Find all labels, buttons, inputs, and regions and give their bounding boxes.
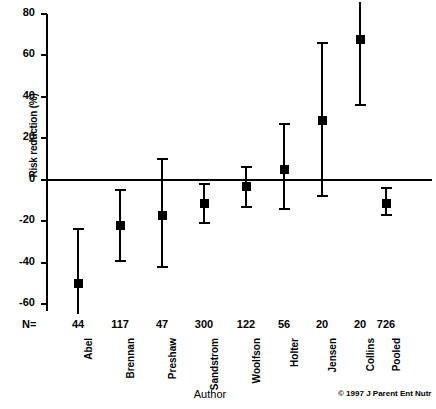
category-label: Woolfson <box>251 338 262 383</box>
ci-lower-cap <box>199 222 210 224</box>
point-estimate-marker <box>356 35 365 44</box>
y-axis-tick: 80 <box>41 13 47 15</box>
y-axis-tick-label: -40 <box>19 255 35 267</box>
y-axis-tick-label: 60 <box>23 47 35 59</box>
n-value: 117 <box>100 318 140 330</box>
ci-upper-cap <box>381 187 392 189</box>
confidence-interval-line <box>359 2 361 105</box>
ci-lower-cap <box>381 214 392 216</box>
category-label: Collins <box>365 338 376 371</box>
ci-upper-cap <box>241 166 252 168</box>
y-axis-tick: 60 <box>41 54 47 56</box>
y-axis-tick-label: -60 <box>19 296 35 308</box>
forest-plot-figure: Risk reduction (%) 806040200-20-40-60 N=… <box>0 0 436 409</box>
y-axis-tick: -20 <box>41 220 47 222</box>
point-estimate-marker <box>74 279 83 288</box>
point-estimate-marker <box>116 221 125 230</box>
zero-reference-line <box>46 179 432 181</box>
n-value: 726 <box>366 318 406 330</box>
y-axis-tick-label: 0 <box>29 172 35 184</box>
point-estimate-marker <box>280 165 289 174</box>
y-axis-tick: 0 <box>41 179 47 181</box>
n-value: 122 <box>226 318 266 330</box>
category-label: Holter <box>289 338 300 367</box>
plot-area: 806040200-20-40-60 <box>46 8 432 310</box>
ci-lower-cap <box>115 260 126 262</box>
x-axis-title: Author <box>160 388 260 400</box>
copyright-notice: © 1997 J Parent Ent Nutr <box>338 389 431 398</box>
category-label: Preshaw <box>167 338 178 379</box>
n-value: 20 <box>302 318 342 330</box>
y-axis-tick: -60 <box>41 303 47 305</box>
n-value: 56 <box>264 318 304 330</box>
ci-lower-cap <box>279 208 290 210</box>
category-label: Abel <box>83 338 94 360</box>
ci-upper-cap <box>317 42 328 44</box>
y-axis-spine <box>46 14 48 311</box>
ci-upper-cap <box>157 158 168 160</box>
point-estimate-marker <box>158 211 167 220</box>
ci-lower-cap <box>355 104 366 106</box>
category-label: Pooled <box>391 338 402 371</box>
point-estimate-marker <box>382 199 391 208</box>
y-axis-tick-label: -20 <box>19 213 35 225</box>
ci-upper-cap <box>115 189 126 191</box>
y-axis-tick-label: 80 <box>23 6 35 18</box>
point-estimate-marker <box>200 199 209 208</box>
n-row-label: N= <box>22 318 36 330</box>
ci-upper-cap <box>199 183 210 185</box>
ci-upper-cap <box>279 123 290 125</box>
y-axis-tick: -40 <box>41 262 47 264</box>
category-label: Brennan <box>125 338 136 379</box>
point-estimate-marker <box>318 116 327 125</box>
point-estimate-marker <box>242 182 251 191</box>
ci-lower-cap <box>157 266 168 268</box>
category-label: Sandstrom <box>209 338 220 390</box>
y-axis-tick: 20 <box>41 137 47 139</box>
y-axis-tick: 40 <box>41 96 47 98</box>
ci-upper-cap <box>73 228 84 230</box>
ci-lower-cap <box>317 195 328 197</box>
y-axis-tick-label: 20 <box>23 130 35 142</box>
confidence-interval-line <box>77 229 79 314</box>
n-value: 47 <box>142 318 182 330</box>
n-value: 300 <box>184 318 224 330</box>
ci-lower-cap <box>241 206 252 208</box>
category-label: Jensen <box>327 338 338 372</box>
y-axis-tick-label: 40 <box>23 89 35 101</box>
n-value: 44 <box>58 318 98 330</box>
